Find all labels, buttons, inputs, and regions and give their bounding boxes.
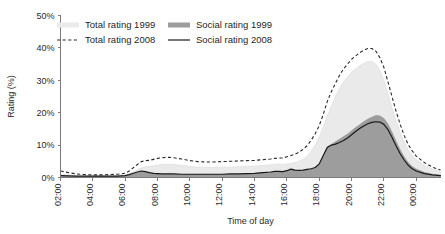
chart-container: 0%10%20%30%40%50% 02:0004:0006:0008:0010…: [0, 0, 445, 234]
legend-swatch-icon: [57, 23, 79, 28]
legend-label: Social rating 1999: [196, 19, 272, 30]
legend-item: Total rating 2008: [57, 34, 155, 45]
x-tick-label: 10:00: [182, 184, 192, 207]
x-axis-title: Time of day: [227, 216, 274, 226]
x-tick-label: 20:00: [344, 184, 354, 207]
y-tick-label: 10%: [36, 140, 54, 150]
legend-swatch-icon: [168, 23, 190, 28]
x-tick-label: 16:00: [279, 184, 289, 207]
axis-titles: Rating (%) Time of day: [6, 75, 274, 226]
legend-item: Social rating 1999: [168, 19, 272, 30]
y-tick-label: 50%: [36, 11, 54, 21]
y-tick-label: 0%: [41, 173, 54, 183]
x-tick-label: 06:00: [117, 184, 127, 207]
legend-item: Total rating 1999: [57, 19, 155, 30]
legend-label: Total rating 1999: [85, 19, 155, 30]
y-tick-label: 20%: [36, 108, 54, 118]
x-tick-label: 02:00: [53, 184, 63, 207]
x-tick-label: 22:00: [376, 184, 386, 207]
x-tick-label: 08:00: [150, 184, 160, 207]
x-tick-label: 00:00: [408, 184, 418, 207]
y-tick-label: 40%: [36, 43, 54, 53]
plot-areas: [61, 62, 441, 178]
x-tick-label: 14:00: [247, 183, 257, 206]
legend-label: Total rating 2008: [85, 34, 155, 45]
x-tick-label: 18:00: [311, 184, 321, 207]
x-tick-label: 04:00: [85, 184, 95, 207]
legend-label: Social rating 2008: [196, 34, 272, 45]
y-tick-label: 30%: [36, 76, 54, 86]
chart-legend: Total rating 1999Social rating 1999Total…: [57, 19, 272, 45]
legend-item: Social rating 2008: [168, 34, 272, 45]
y-axis-title: Rating (%): [6, 75, 16, 118]
y-axis-ticks: 0%10%20%30%40%50%: [36, 11, 60, 183]
rating-time-of-day-chart: 0%10%20%30%40%50% 02:0004:0006:0008:0010…: [0, 0, 445, 234]
x-axis-ticks: 02:0004:0006:0008:0010:0012:0014:0016:00…: [53, 178, 419, 207]
x-tick-label: 12:00: [214, 184, 224, 207]
